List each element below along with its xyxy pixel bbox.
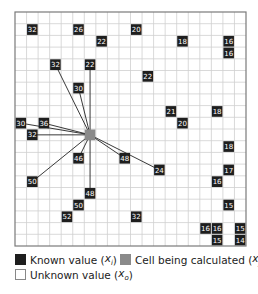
known-value-cell: 24: [154, 165, 165, 176]
known-value-cell: 15: [223, 200, 234, 211]
svg-text:24: 24: [155, 167, 164, 175]
svg-text:22: 22: [86, 61, 95, 69]
known-value-cell: 20: [131, 24, 142, 35]
svg-text:32: 32: [28, 131, 37, 139]
legend-unknown-label: Unknown value: [30, 269, 111, 281]
svg-text:52: 52: [63, 213, 72, 221]
known-value-cell: 50: [27, 176, 38, 187]
known-value-cell: 32: [131, 211, 142, 222]
grid-lines: [15, 12, 246, 246]
svg-text:30: 30: [74, 85, 83, 93]
known-value-cell: 32: [50, 59, 61, 70]
known-value-cell: 22: [96, 36, 107, 47]
svg-text:18: 18: [213, 108, 222, 116]
known-value-cell: 17: [223, 165, 234, 176]
svg-text:15: 15: [236, 225, 245, 233]
svg-text:32: 32: [51, 61, 60, 69]
svg-text:32: 32: [28, 26, 37, 34]
svg-text:32: 32: [132, 213, 141, 221]
svg-text:15: 15: [213, 237, 222, 245]
known-value-cell: 16: [212, 223, 223, 234]
known-swatch: [15, 254, 26, 265]
known-value-cell: 30: [73, 83, 84, 94]
known-value-cell: 32: [27, 24, 38, 35]
known-value-cell: 30: [16, 118, 27, 129]
legend-calculated: Cell being calculated (xj): [120, 252, 258, 267]
known-value-cell: 36: [39, 118, 50, 129]
known-value-cell: 48: [119, 153, 130, 164]
svg-text:17: 17: [224, 167, 233, 175]
svg-text:18: 18: [178, 38, 187, 46]
interpolation-grid-diagram: 3226202218161632222230211830362032184648…: [0, 0, 258, 250]
legend-known-label: Known value: [30, 254, 97, 266]
svg-text:20: 20: [178, 120, 187, 128]
known-value-cell: 18: [177, 36, 188, 47]
target-cell: [85, 130, 96, 141]
svg-text:18: 18: [224, 143, 233, 151]
known-value-cell: 20: [177, 118, 188, 129]
legend-unknown: Unknown value (xo): [15, 267, 133, 282]
known-value-cell: 18: [223, 141, 234, 152]
known-value-cell: 18: [212, 106, 223, 117]
svg-text:48: 48: [120, 155, 129, 163]
known-value-cell: 16: [200, 223, 211, 234]
svg-text:15: 15: [224, 202, 233, 210]
known-value-cell: 52: [62, 211, 73, 222]
known-value-cell: 48: [85, 188, 96, 199]
known-value-cell: 14: [235, 235, 246, 246]
legend-unknown-var: xo: [118, 267, 129, 282]
svg-text:22: 22: [143, 73, 152, 81]
svg-text:14: 14: [236, 237, 245, 245]
svg-text:16: 16: [224, 38, 233, 46]
known-value-cell: 32: [27, 130, 38, 141]
svg-text:50: 50: [28, 178, 37, 186]
known-value-cell: 50: [73, 200, 84, 211]
known-value-cell: 15: [235, 223, 246, 234]
known-value-cell: 46: [73, 153, 84, 164]
svg-text:16: 16: [224, 50, 233, 58]
svg-text:46: 46: [74, 155, 83, 163]
known-value-cell: 16: [212, 176, 223, 187]
known-value-cell: 22: [143, 71, 154, 82]
known-value-cell: 21: [166, 106, 177, 117]
svg-text:30: 30: [16, 120, 25, 128]
known-value-cell: 15: [212, 235, 223, 246]
svg-text:26: 26: [74, 26, 83, 34]
svg-text:22: 22: [97, 38, 106, 46]
svg-text:36: 36: [39, 120, 48, 128]
known-value-cell: 26: [73, 24, 84, 35]
legend-known-var: xi: [105, 252, 113, 267]
known-value-cell: 16: [223, 36, 234, 47]
svg-text:16: 16: [213, 178, 222, 186]
svg-text:16: 16: [213, 225, 222, 233]
known-value-cell: 16: [223, 48, 234, 59]
known-value-cell: 22: [85, 59, 96, 70]
svg-text:20: 20: [132, 26, 141, 34]
svg-text:21: 21: [166, 108, 175, 116]
svg-text:50: 50: [74, 202, 83, 210]
legend-calculated-var: xj: [252, 252, 258, 267]
svg-text:16: 16: [201, 225, 210, 233]
legend-calculated-label: Cell being calculated: [135, 254, 245, 266]
unknown-swatch: [15, 269, 26, 280]
legend-known: Known value (xi): [15, 252, 117, 267]
calculated-swatch: [120, 254, 131, 265]
svg-text:48: 48: [86, 190, 95, 198]
